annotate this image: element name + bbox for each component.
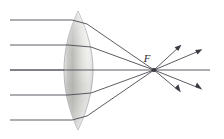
optics-diagram-figure: F	[0, 0, 224, 139]
refracted-ray-4	[91, 70, 154, 93]
diverging-ray-5	[154, 70, 178, 90]
arrow-head-2	[195, 49, 202, 54]
diverging-rays-group	[154, 45, 202, 93]
diverging-ray-4	[154, 70, 199, 88]
diverging-ray-2	[154, 51, 199, 70]
diverging-ray-1	[154, 47, 179, 70]
lens-group	[64, 11, 93, 130]
lens-highlight-overlay	[64, 11, 93, 130]
refracted-ray-5	[87, 70, 154, 116]
arrow-head-5	[175, 84, 181, 92]
focal-point-label: F	[143, 52, 151, 64]
arrow-head-4	[195, 83, 202, 90]
focal-point-dot	[151, 68, 156, 72]
optics-diagram-svg: F	[0, 0, 224, 139]
